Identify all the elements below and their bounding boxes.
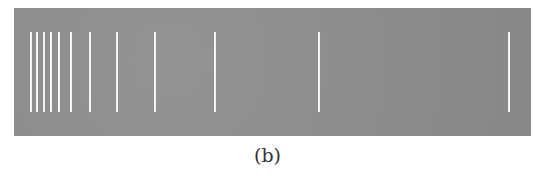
- spectral-line: [318, 32, 320, 112]
- spectral-line: [36, 32, 38, 112]
- spectral-line: [508, 32, 510, 112]
- spectral-line: [89, 32, 91, 112]
- spectral-line: [30, 32, 32, 112]
- spectrum-panel: [14, 8, 531, 136]
- spectral-line: [70, 32, 72, 112]
- spectral-line: [58, 32, 60, 112]
- spectral-line: [116, 32, 118, 112]
- figure-caption: (b): [0, 144, 535, 166]
- spectral-line: [43, 32, 45, 112]
- spectral-line: [50, 32, 52, 112]
- spectral-line: [214, 32, 216, 112]
- spectral-line: [154, 32, 156, 112]
